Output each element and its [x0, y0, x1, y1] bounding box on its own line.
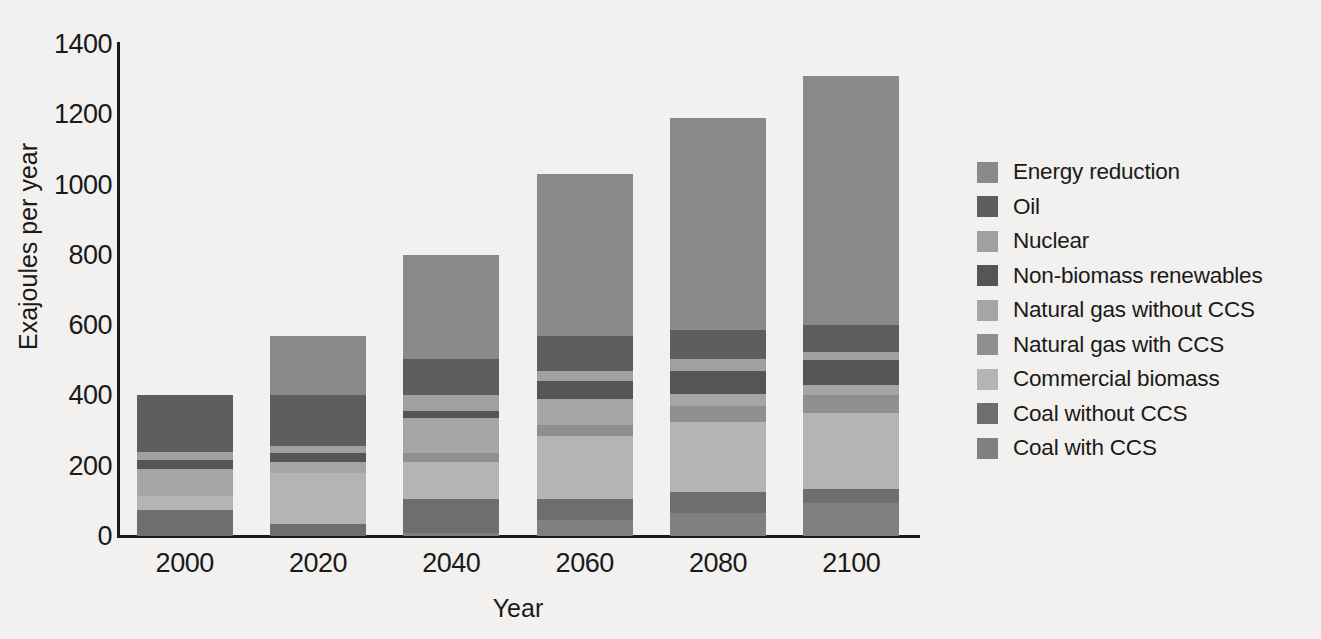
- bar-segment[interactable]: [137, 469, 233, 495]
- bar-segment[interactable]: [270, 453, 366, 462]
- bar-segment[interactable]: [137, 510, 233, 536]
- bar-segment[interactable]: [403, 395, 499, 411]
- bar-segment[interactable]: [803, 413, 899, 489]
- bar-segment[interactable]: [670, 513, 766, 536]
- bar-segment[interactable]: [803, 395, 899, 413]
- y-axis-title: Exajoules per year: [14, 97, 43, 397]
- bar-segment[interactable]: [403, 411, 499, 418]
- legend-label: Coal without CCS: [1013, 401, 1187, 427]
- x-tick-label-2060: 2060: [515, 548, 655, 579]
- legend-label: Energy reduction: [1013, 159, 1180, 185]
- legend-label: Natural gas with CCS: [1013, 332, 1224, 358]
- legend-label: Natural gas without CCS: [1013, 297, 1255, 323]
- stacked-bar[interactable]: [137, 395, 233, 536]
- bar-segment[interactable]: [403, 499, 499, 532]
- bar-segment[interactable]: [537, 520, 633, 536]
- legend-label: Oil: [1013, 194, 1040, 220]
- bar-segment[interactable]: [670, 422, 766, 492]
- y-tick-label: 1400: [12, 29, 112, 60]
- legend-swatch-icon: [977, 162, 998, 183]
- legend-swatch-icon: [977, 265, 998, 286]
- legend-item[interactable]: Commercial biomass: [977, 362, 1317, 397]
- bar-segment[interactable]: [803, 325, 899, 351]
- bar-segment[interactable]: [137, 460, 233, 469]
- bar-segment[interactable]: [537, 399, 633, 425]
- bar-segment[interactable]: [270, 524, 366, 536]
- x-axis-title: Year: [118, 594, 918, 623]
- x-tick-label-2100: 2100: [781, 548, 921, 579]
- bar-segment[interactable]: [803, 489, 899, 503]
- y-tick-label: 200: [12, 450, 112, 481]
- bar-segment[interactable]: [537, 371, 633, 382]
- bar-segment[interactable]: [403, 462, 499, 499]
- bar-segment[interactable]: [137, 395, 233, 451]
- legend-item[interactable]: Coal without CCS: [977, 397, 1317, 432]
- bar-segment[interactable]: [803, 352, 899, 361]
- legend-item[interactable]: Natural gas with CCS: [977, 328, 1317, 363]
- chart-legend: Energy reductionOilNuclearNon-biomass re…: [977, 155, 1317, 466]
- bar-segment[interactable]: [403, 418, 499, 453]
- legend-swatch-icon: [977, 196, 998, 217]
- bar-segment[interactable]: [270, 473, 366, 524]
- x-tick-label-2020: 2020: [248, 548, 388, 579]
- plot-area: [118, 44, 918, 536]
- bar-segment[interactable]: [537, 436, 633, 499]
- stacked-bar[interactable]: [403, 255, 499, 536]
- bar-segment[interactable]: [270, 395, 366, 446]
- bar-segment[interactable]: [670, 406, 766, 422]
- bar-segment[interactable]: [537, 336, 633, 371]
- legend-swatch-icon: [977, 300, 998, 321]
- stacked-bar[interactable]: [270, 336, 366, 536]
- legend-swatch-icon: [977, 369, 998, 390]
- legend-swatch-icon: [977, 403, 998, 424]
- legend-item[interactable]: Natural gas without CCS: [977, 293, 1317, 328]
- bar-segment[interactable]: [270, 446, 366, 453]
- bar-segment[interactable]: [537, 425, 633, 436]
- bar-segment[interactable]: [137, 496, 233, 510]
- stacked-bar[interactable]: [803, 76, 899, 536]
- legend-item[interactable]: Non-biomass renewables: [977, 259, 1317, 294]
- bar-segment[interactable]: [803, 360, 899, 385]
- bar-segment[interactable]: [403, 359, 499, 396]
- legend-label: Non-biomass renewables: [1013, 263, 1262, 289]
- bar-segment[interactable]: [670, 330, 766, 358]
- legend-swatch-icon: [977, 231, 998, 252]
- bar-segment[interactable]: [670, 359, 766, 371]
- x-tick-label-2040: 2040: [381, 548, 521, 579]
- bar-segment[interactable]: [670, 118, 766, 331]
- bar-segment[interactable]: [270, 336, 366, 396]
- bar-segment[interactable]: [537, 174, 633, 336]
- stacked-bar[interactable]: [670, 118, 766, 536]
- stacked-bar[interactable]: [537, 174, 633, 536]
- bar-segment[interactable]: [670, 394, 766, 406]
- x-tick-label-2080: 2080: [648, 548, 788, 579]
- legend-item[interactable]: Oil: [977, 190, 1317, 225]
- y-tick-label: 0: [12, 521, 112, 552]
- legend-item[interactable]: Energy reduction: [977, 155, 1317, 190]
- bar-segment[interactable]: [537, 499, 633, 520]
- legend-item[interactable]: Nuclear: [977, 224, 1317, 259]
- bar-segment[interactable]: [403, 533, 499, 537]
- stacked-bar-chart-figure: 0200400600800100012001400 Exajoules per …: [0, 0, 1321, 639]
- bar-segment[interactable]: [803, 385, 899, 396]
- x-tick-label-2000: 2000: [115, 548, 255, 579]
- legend-swatch-icon: [977, 334, 998, 355]
- bar-segment[interactable]: [403, 453, 499, 462]
- bar-segment[interactable]: [670, 371, 766, 394]
- bar-segment[interactable]: [803, 503, 899, 536]
- bar-segment[interactable]: [137, 452, 233, 461]
- bar-segment[interactable]: [537, 381, 633, 399]
- bar-segment[interactable]: [670, 492, 766, 513]
- legend-item[interactable]: Coal with CCS: [977, 431, 1317, 466]
- legend-label: Nuclear: [1013, 228, 1089, 254]
- legend-label: Coal with CCS: [1013, 435, 1157, 461]
- legend-swatch-icon: [977, 438, 998, 459]
- legend-label: Commercial biomass: [1013, 366, 1219, 392]
- bar-segment[interactable]: [403, 255, 499, 359]
- bar-segment[interactable]: [270, 462, 366, 473]
- bar-segment[interactable]: [803, 76, 899, 326]
